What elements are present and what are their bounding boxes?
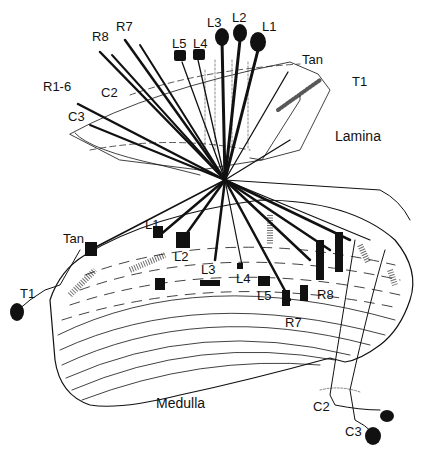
label-medulla-region: Medulla bbox=[156, 396, 205, 410]
t1-cell-body bbox=[10, 303, 24, 321]
label-l2-medulla: L2 bbox=[174, 250, 188, 263]
neuron-diagram: R1-6 R8 R7 C2 C3 L5 L4 L3 L2 L1 Tan T1 L… bbox=[0, 0, 431, 452]
l1-cell-body bbox=[250, 32, 266, 52]
l1-terminal-b bbox=[155, 278, 165, 290]
c3-cell-body bbox=[365, 427, 381, 445]
label-tan-lamina: Tan bbox=[302, 53, 323, 66]
label-l3-lamina: L3 bbox=[207, 16, 221, 29]
label-l2-lamina: L2 bbox=[232, 11, 246, 24]
label-l4-lamina: L4 bbox=[193, 37, 207, 50]
label-lamina-region: Lamina bbox=[335, 129, 381, 143]
l2-cell-body bbox=[233, 24, 247, 42]
l3-terminal bbox=[200, 280, 220, 286]
label-r8-lamina: R8 bbox=[92, 30, 109, 43]
r8-terminal-a bbox=[316, 240, 324, 280]
label-t1-medulla: T1 bbox=[20, 287, 35, 300]
label-l1-medulla: L1 bbox=[145, 218, 159, 231]
c2-cell-body bbox=[380, 410, 394, 422]
r8-terminal-b bbox=[335, 232, 343, 272]
label-r1-6: R1-6 bbox=[43, 80, 71, 93]
label-c2-lamina: C2 bbox=[101, 86, 118, 99]
label-tan-medulla: Tan bbox=[63, 232, 84, 245]
tan-cell-body bbox=[85, 242, 97, 256]
l5-cell-body bbox=[174, 50, 186, 61]
label-r8-medulla: R8 bbox=[317, 288, 334, 301]
label-c3-lamina: C3 bbox=[68, 110, 85, 123]
l3-cell-body bbox=[215, 28, 229, 46]
label-l1-lamina: L1 bbox=[262, 20, 276, 33]
label-l4-medulla: L4 bbox=[236, 272, 250, 285]
medulla-outline bbox=[50, 200, 413, 406]
label-l3-medulla: L3 bbox=[201, 263, 215, 276]
r7-terminal-b bbox=[300, 285, 308, 301]
label-r7-medulla: R7 bbox=[285, 316, 302, 329]
label-c3-medulla: C3 bbox=[345, 425, 362, 438]
label-t1-lamina: T1 bbox=[352, 75, 367, 88]
l4-terminal bbox=[237, 263, 243, 269]
diagram-drawing bbox=[0, 0, 431, 452]
label-c2-medulla: C2 bbox=[313, 400, 330, 413]
l5-terminal bbox=[258, 276, 270, 286]
label-r7-lamina: R7 bbox=[116, 20, 133, 33]
l2-terminal bbox=[176, 232, 190, 248]
lamina-bracket bbox=[250, 96, 300, 160]
label-l5-lamina: L5 bbox=[172, 37, 186, 50]
r7-terminal-a bbox=[282, 290, 290, 306]
label-l5-medulla: L5 bbox=[257, 289, 271, 302]
